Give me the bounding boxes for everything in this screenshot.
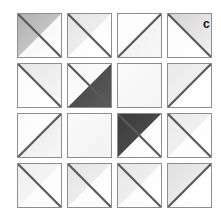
tile-1-3 xyxy=(117,13,162,58)
tile-3-2 xyxy=(67,113,112,158)
tile-2-4 xyxy=(167,63,212,108)
tile-2-3 xyxy=(117,63,162,108)
tile-4-4 xyxy=(167,163,212,208)
tile-1-2 xyxy=(67,13,112,58)
panel-label: c xyxy=(203,18,210,30)
tile-fill xyxy=(68,114,111,157)
tile-4-3 xyxy=(117,163,162,208)
tile-3-3 xyxy=(117,113,162,158)
tile-4-1 xyxy=(17,163,62,208)
tile-1-1 xyxy=(17,13,62,58)
tile-grid xyxy=(17,13,212,208)
tile-fill xyxy=(118,64,161,107)
tile-3-1 xyxy=(17,113,62,158)
tile-2-1 xyxy=(17,63,62,108)
figure-panel: c xyxy=(0,0,221,216)
tile-2-2 xyxy=(67,63,112,108)
tile-3-4 xyxy=(167,113,212,158)
tile-4-2 xyxy=(67,163,112,208)
